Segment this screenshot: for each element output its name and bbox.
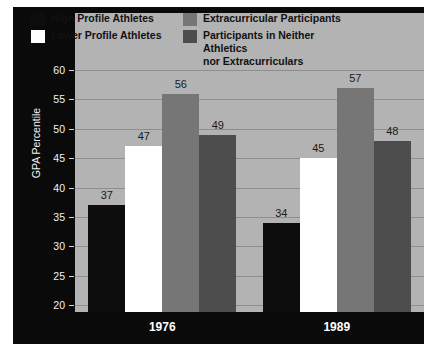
x-tick-label: 1989 xyxy=(250,320,425,334)
legend-label: High Profile Athletes xyxy=(51,12,154,25)
bar-value-label: 37 xyxy=(84,189,129,201)
bar xyxy=(374,141,411,313)
y-tick-label: 45 xyxy=(33,152,65,164)
y-tick-mark xyxy=(69,129,74,130)
bar-value-label: 56 xyxy=(158,78,203,90)
bar xyxy=(199,135,236,312)
y-tick-label: 25 xyxy=(33,270,65,282)
legend-entry: Extracurricular Participants xyxy=(183,12,359,26)
bar xyxy=(162,94,199,313)
chart-figure: GPA Percentile 202530354045505560 374756… xyxy=(13,7,424,344)
bar-value-label: 49 xyxy=(195,119,240,131)
y-tick-mark xyxy=(69,246,74,247)
y-tick-mark xyxy=(69,99,74,100)
bar-value-label: 48 xyxy=(370,125,415,137)
y-tick-mark xyxy=(69,305,74,306)
bar xyxy=(263,223,300,312)
legend-swatch-icon xyxy=(183,30,197,43)
legend-swatch-icon xyxy=(31,30,45,43)
bar xyxy=(337,88,374,312)
y-tick-label: 50 xyxy=(33,123,65,135)
bar-value-label: 47 xyxy=(121,130,166,142)
bar-value-label: 45 xyxy=(296,142,341,154)
y-tick-mark xyxy=(69,276,74,277)
bar-value-label: 57 xyxy=(333,72,378,84)
y-tick-mark xyxy=(69,188,74,189)
x-tick-label: 1976 xyxy=(75,320,250,334)
legend-entry: High Profile Athletes xyxy=(31,12,183,26)
y-tick-mark xyxy=(69,158,74,159)
bar-value-label: 34 xyxy=(259,207,304,219)
y-tick-mark xyxy=(69,217,74,218)
legend-label: Participants in Neither Athletics nor Ex… xyxy=(203,29,359,68)
y-tick-mark xyxy=(69,70,74,71)
y-tick-label: 30 xyxy=(33,240,65,252)
legend-entry: Lower Profile Athletes xyxy=(31,29,183,68)
bar xyxy=(125,146,162,312)
legend-label: Lower Profile Athletes xyxy=(51,29,161,42)
chart-legend: High Profile AthletesExtracurricular Par… xyxy=(31,12,359,68)
legend-swatch-icon xyxy=(183,13,197,26)
legend-label: Extracurricular Participants xyxy=(203,12,341,25)
y-tick-label: 35 xyxy=(33,211,65,223)
bar xyxy=(88,205,125,312)
legend-swatch-icon xyxy=(31,13,45,26)
y-tick-label: 55 xyxy=(33,93,65,105)
y-tick-label: 20 xyxy=(33,299,65,311)
bar xyxy=(300,158,337,312)
legend-entry: Participants in Neither Athletics nor Ex… xyxy=(183,29,359,68)
y-tick-label: 40 xyxy=(33,182,65,194)
